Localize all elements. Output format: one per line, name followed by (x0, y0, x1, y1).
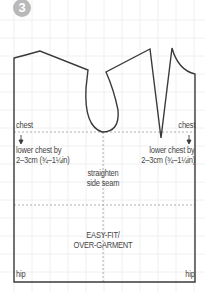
easy-fit-line2: OVER-GARMENT (68, 240, 138, 250)
chest-label-left: chest (16, 120, 33, 130)
easy-fit-line1: EASY-FIT/ (68, 230, 138, 240)
arrow-down-icon (19, 140, 23, 144)
lower-chest-left-line2: 2–3cm (¾–1¼in) (16, 155, 70, 165)
pattern-diagram: 3 chest chest lower chest by 2–3cm (¾–1¼… (0, 0, 205, 292)
hip-label-left: hip (16, 269, 25, 279)
hip-label-right: hip (186, 269, 195, 279)
lower-chest-left-line1: lower chest by (16, 145, 61, 155)
arrow-down-icon (187, 140, 191, 144)
lower-chest-right-line2: 2–3cm (¾–1¼in) (141, 155, 195, 165)
chest-label-right: chest (178, 120, 195, 130)
straighten-line1: straighten (77, 168, 130, 178)
lower-chest-right-line1: lower chest by (150, 145, 195, 155)
straighten-line2: side seam (77, 178, 130, 188)
arrows (19, 135, 191, 144)
